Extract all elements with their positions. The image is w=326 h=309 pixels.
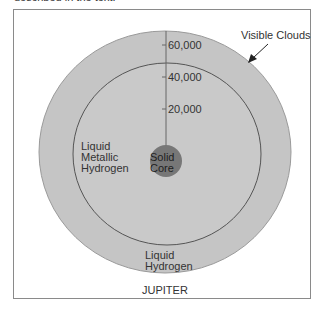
visible-clouds-label: Visible Clouds bbox=[241, 29, 311, 41]
diagram-title: JUPITER bbox=[142, 284, 188, 296]
tick-label-40000: 40,000 bbox=[168, 71, 202, 83]
outer-layer-label-2: Hydrogen bbox=[145, 260, 193, 272]
tick-label-20000: 20,000 bbox=[168, 103, 202, 115]
callout-arrow-line bbox=[253, 44, 268, 58]
core-label-2: Core bbox=[150, 162, 174, 174]
tick-label-60000: 60,000 bbox=[168, 39, 202, 51]
middle-layer-label-3: Hydrogen bbox=[81, 162, 129, 174]
